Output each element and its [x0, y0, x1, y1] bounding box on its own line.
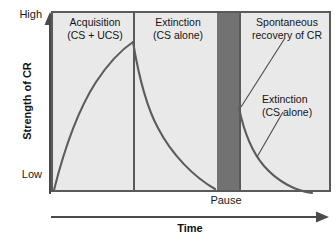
panel-caption-extinction-second: Extinction (CS alone) [262, 93, 334, 118]
panel-caption-spontaneous-recovery-line1: Spontaneous [244, 16, 330, 29]
y-axis-title: Strength of CR [21, 41, 33, 161]
pause-label: Pause [188, 194, 264, 206]
panel-caption-extinction-first: Extinction (CS alone) [140, 16, 216, 41]
panel-divider-pause-recovery [239, 13, 241, 190]
x-axis-title: Time [51, 222, 329, 234]
panel-caption-acquisition-line2: (CS + UCS) [57, 29, 133, 42]
y-axis-high-label: High [2, 8, 42, 20]
panel-divider-acquisition-extinction [133, 13, 135, 190]
classical-conditioning-figure: High Low Strength of CR Acquisition (CS … [0, 0, 335, 240]
panel-caption-extinction-first-line2: (CS alone) [140, 29, 216, 42]
panel-caption-acquisition: Acquisition (CS + UCS) [57, 16, 133, 41]
panel-caption-extinction-first-line1: Extinction [140, 16, 216, 29]
panel-caption-spontaneous-recovery: Spontaneous recovery of CR [244, 16, 330, 41]
panel-caption-spontaneous-recovery-line2: recovery of CR [244, 29, 330, 42]
panel-caption-extinction-second-line1: Extinction [262, 93, 334, 106]
y-axis-low-label: Low [2, 168, 42, 180]
panel-caption-acquisition-line1: Acquisition [57, 16, 133, 29]
pause-band [217, 13, 239, 190]
panel-caption-extinction-second-line2: (CS alone) [262, 106, 334, 119]
